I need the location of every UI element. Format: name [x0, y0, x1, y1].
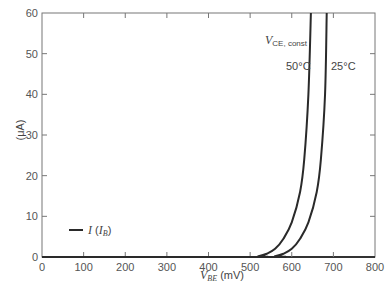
- label-25c: 25°C: [331, 60, 356, 72]
- x-tick-label: 700: [324, 261, 342, 273]
- y-tick-label: 20: [26, 170, 38, 182]
- y-axis-label: (μA): [14, 119, 26, 140]
- y-tick-label: 10: [26, 210, 38, 222]
- axes: [42, 13, 375, 257]
- label-50c: 50°C: [286, 60, 311, 72]
- y-tick-label: 50: [26, 48, 38, 60]
- y-tick-label: 60: [26, 7, 38, 19]
- y-tick-label: 30: [26, 129, 38, 141]
- x-tick-label: 800: [366, 261, 384, 273]
- series-line-50c: [42, 13, 311, 257]
- x-tick-label: 200: [116, 261, 134, 273]
- plot-frame: [42, 13, 375, 257]
- y-tick-label: 40: [26, 88, 38, 100]
- x-tick-label: 0: [39, 261, 45, 273]
- series-line-25c: [42, 13, 327, 257]
- x-tick-label: 600: [283, 261, 301, 273]
- legend-label: I (IB): [87, 223, 111, 238]
- y-tick-label: 0: [32, 251, 38, 263]
- x-axis-label: VBE (mV): [200, 268, 244, 283]
- ticks: 01002003004005006007008000102030405060: [26, 7, 384, 273]
- vce-annotation: VCE, const: [265, 33, 308, 48]
- chart: 01002003004005006007008000102030405060 (…: [0, 0, 391, 290]
- x-tick-label: 300: [158, 261, 176, 273]
- curves: [42, 13, 327, 257]
- x-tick-label: 100: [74, 261, 92, 273]
